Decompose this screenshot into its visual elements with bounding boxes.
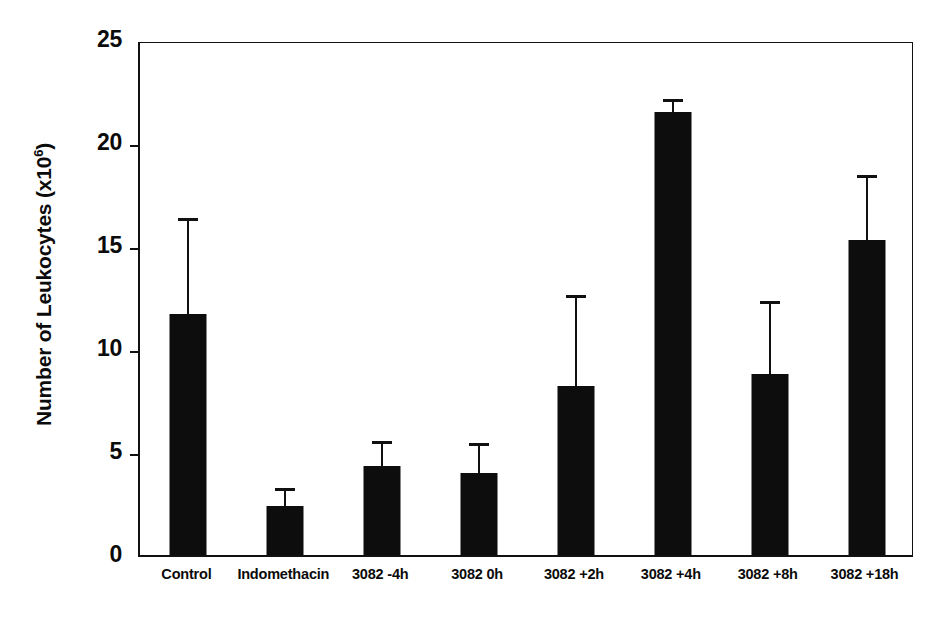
bar: [461, 473, 498, 555]
bar: [170, 314, 207, 555]
y-tick-label: 0: [60, 541, 122, 568]
y-axis-tick: [130, 351, 140, 353]
x-tick-label: 3082 -4h: [332, 566, 429, 582]
x-tick-label: Control: [138, 566, 235, 582]
error-bar: [381, 444, 383, 467]
y-tick-label: 5: [60, 438, 122, 465]
error-bar: [284, 491, 286, 505]
plot-area: [138, 42, 913, 557]
error-bar: [187, 221, 189, 314]
error-bar-cap: [663, 99, 683, 102]
error-bar: [769, 304, 771, 374]
y-axis-title-superscript: 6: [31, 150, 46, 157]
bar: [654, 112, 691, 555]
x-tick-label: 3082 0h: [429, 566, 526, 582]
bar-slot: [528, 43, 625, 555]
y-tick-label: 10: [60, 335, 122, 362]
x-tick-label: 3082 +18h: [816, 566, 913, 582]
error-bar-cap: [178, 218, 198, 221]
bar-slot: [624, 43, 721, 555]
x-tick-label: 3082 +8h: [719, 566, 816, 582]
bar: [751, 374, 788, 555]
x-tick-label: 3082 +4h: [622, 566, 719, 582]
bar-chart: Number of Leukocytes (x106) 0510152025 C…: [0, 0, 940, 618]
y-axis-title-text: Number of Leukocytes (x10: [32, 157, 55, 426]
x-tick-label: 3082 +2h: [526, 566, 623, 582]
y-tick-label: 15: [60, 232, 122, 259]
bar-slot: [431, 43, 528, 555]
bar: [557, 386, 594, 555]
error-bar-cap: [857, 175, 877, 178]
error-bar-cap: [275, 488, 295, 491]
error-bar: [575, 298, 577, 387]
bar: [364, 466, 401, 555]
x-tick-label: Indomethacin: [235, 566, 332, 582]
error-bar: [478, 446, 480, 473]
error-bar: [672, 102, 674, 112]
error-bar: [866, 178, 868, 240]
bar: [848, 240, 885, 555]
bar-slot: [140, 43, 237, 555]
y-axis-tick: [130, 248, 140, 250]
y-axis-title-tail: ): [32, 143, 55, 150]
bar: [267, 506, 304, 555]
bar-slot: [818, 43, 915, 555]
error-bar-cap: [760, 301, 780, 304]
y-tick-label: 20: [60, 129, 122, 156]
y-axis-title: Number of Leukocytes (x106): [31, 50, 56, 520]
y-tick-label: 25: [60, 26, 122, 53]
y-axis-tick: [130, 454, 140, 456]
bar-slot: [334, 43, 431, 555]
error-bar-cap: [566, 295, 586, 298]
bar-slot: [237, 43, 334, 555]
bar-slot: [721, 43, 818, 555]
error-bar-cap: [469, 443, 489, 446]
y-axis-tick: [130, 145, 140, 147]
error-bar-cap: [372, 441, 392, 444]
